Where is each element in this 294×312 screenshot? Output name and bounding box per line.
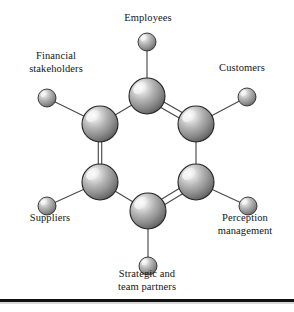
satellite-sphere-employees[interactable] — [138, 33, 156, 51]
satellite-sphere-financial[interactable] — [38, 89, 56, 107]
figure-root: Employees Financial stakeholders Custome… — [0, 0, 294, 312]
bond-layer — [47, 42, 248, 266]
stakeholder-hexagon-diagram — [0, 0, 294, 312]
satellite-sphere-strategic[interactable] — [139, 257, 157, 275]
hub-sphere-perception[interactable] — [178, 164, 214, 200]
hub-sphere-strategic[interactable] — [130, 193, 166, 229]
hub-sphere-customers[interactable] — [178, 106, 214, 142]
hub-sphere-employees[interactable] — [129, 78, 165, 114]
bottom-divider-shadow — [0, 302, 294, 304]
hub-sphere-suppliers[interactable] — [82, 164, 118, 200]
satellite-sphere-suppliers[interactable] — [38, 197, 56, 215]
satellite-sphere-customers[interactable] — [238, 88, 256, 106]
hub-sphere-financial[interactable] — [82, 106, 118, 142]
satellite-sphere-perception[interactable] — [239, 197, 257, 215]
